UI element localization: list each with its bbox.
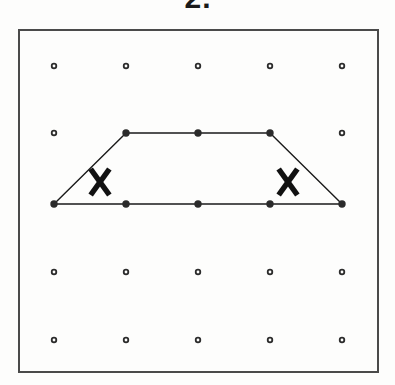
peg: [266, 129, 273, 136]
peg-center: [125, 65, 128, 68]
peg-center: [53, 132, 56, 135]
peg-center: [269, 271, 272, 274]
peg-center: [197, 271, 200, 274]
peg: [267, 337, 273, 343]
peg-center: [197, 132, 199, 134]
peg: [122, 129, 129, 136]
geoboard-canvas: [0, 0, 395, 385]
peg: [266, 200, 273, 207]
peg-center: [341, 203, 343, 205]
peg-center: [125, 271, 128, 274]
peg: [339, 63, 345, 69]
peg: [194, 129, 201, 136]
peg: [51, 63, 57, 69]
peg: [123, 269, 129, 275]
peg: [123, 337, 129, 343]
peg-center: [341, 132, 344, 135]
peg-center: [53, 203, 55, 205]
peg-center: [125, 132, 127, 134]
peg: [50, 200, 57, 207]
peg: [51, 130, 57, 136]
peg: [51, 337, 57, 343]
peg-center: [197, 339, 200, 342]
peg: [267, 63, 273, 69]
peg-center: [269, 203, 271, 205]
peg-center: [197, 65, 200, 68]
peg-center: [197, 203, 199, 205]
peg-center: [269, 339, 272, 342]
peg: [194, 200, 201, 207]
peg-center: [341, 339, 344, 342]
peg: [339, 130, 345, 136]
geoboard-figure: 2.: [0, 0, 395, 385]
peg-center: [269, 65, 272, 68]
peg: [195, 63, 201, 69]
peg: [195, 337, 201, 343]
peg-center: [125, 203, 127, 205]
peg: [267, 269, 273, 275]
peg: [339, 269, 345, 275]
peg: [123, 63, 129, 69]
peg-center: [53, 271, 56, 274]
peg-center: [341, 65, 344, 68]
peg-center: [53, 339, 56, 342]
peg-center: [341, 271, 344, 274]
peg: [338, 200, 345, 207]
peg: [195, 269, 201, 275]
peg: [51, 269, 57, 275]
peg-center: [53, 65, 56, 68]
peg: [339, 337, 345, 343]
peg-center: [269, 132, 271, 134]
peg: [122, 200, 129, 207]
peg-center: [125, 339, 128, 342]
